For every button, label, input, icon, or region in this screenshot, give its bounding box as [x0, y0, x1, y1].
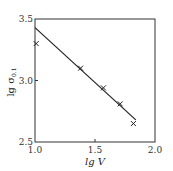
- axis-ticks: [35, 81, 95, 143]
- y-axis-label-main: lg σ: [5, 77, 16, 97]
- plot-frame: [35, 19, 155, 142]
- x-marker: [34, 41, 39, 46]
- y-tick-3.0: 3.0: [19, 76, 34, 86]
- data-points: [34, 41, 136, 126]
- x-tick-1.5: 1.5: [88, 145, 103, 155]
- chart: 3.5 3.0 2.5 1.0 1.5 2.0 lg V lg σ0.1: [0, 0, 173, 171]
- x-axis-label: lg V: [85, 156, 107, 167]
- y-tick-3.5: 3.5: [19, 14, 34, 24]
- x-marker: [131, 121, 136, 126]
- svg-text:lg σ0.1: lg σ0.1: [5, 67, 17, 96]
- x-tick-2.0: 2.0: [148, 145, 163, 155]
- fit-line: [35, 28, 136, 120]
- x-tick-1.0: 1.0: [28, 145, 43, 155]
- y-axis-label-sub: 0.1: [10, 67, 17, 77]
- y-axis-label: lg σ0.1: [5, 67, 17, 96]
